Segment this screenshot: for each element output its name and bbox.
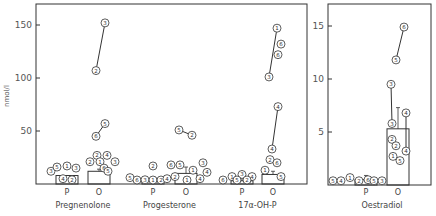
patient-link-line [396, 27, 404, 60]
condition-label: P [240, 188, 245, 197]
y-tick-label: 15 [313, 21, 324, 31]
data-point-label: 1 [98, 159, 102, 165]
data-point-label: 3 [201, 160, 205, 166]
data-point-label: 2 [268, 157, 272, 163]
data-point-label: 2 [173, 174, 177, 180]
data-point-label: 6 [169, 162, 173, 168]
data-point-label: 1 [348, 175, 352, 181]
data-point-label: 3 [240, 171, 244, 177]
y-tick-label: 100 [15, 73, 32, 83]
data-point-label: 1 [391, 153, 395, 159]
data-point-label: 5 [178, 162, 182, 168]
data-point-label: 4 [105, 152, 109, 158]
patient-link-line [272, 107, 278, 149]
data-point-label: 3 [390, 121, 394, 127]
condition-label: O [96, 188, 102, 197]
data-point-label: 4 [404, 110, 408, 116]
data-point-label: 1 [263, 167, 267, 173]
data-point-label: 4 [276, 104, 280, 110]
figure: 50100150PregnenoloneP351342O24213656523P… [0, 0, 436, 216]
data-point-label: 5 [55, 164, 59, 170]
data-point-label: 6 [221, 177, 225, 183]
data-point-label: 1 [275, 25, 279, 31]
data-point-label: 2 [159, 177, 163, 183]
data-point-label: 2 [390, 136, 394, 142]
data-point-label: 4 [404, 148, 408, 154]
group-label: Pregnenolone [56, 201, 111, 210]
group-label: Oestradiol [361, 201, 402, 210]
data-point-label: 2 [394, 143, 398, 149]
data-point-label: 5 [331, 178, 335, 184]
data-point-label: 1 [185, 177, 189, 183]
condition-label: P [65, 188, 70, 197]
data-point-label: 2 [245, 177, 249, 183]
data-point-label: 5 [279, 174, 283, 180]
y-axis-label: nmol/l [3, 85, 11, 107]
data-point-label: 4 [270, 146, 274, 152]
condition-label: O [270, 188, 276, 197]
data-point-label: 3 [49, 168, 53, 174]
data-point-label: 6 [402, 24, 406, 30]
condition-label: P [364, 188, 369, 197]
data-point-label: 3 [113, 159, 117, 165]
group-label: Progesterone [143, 201, 196, 210]
y-tick-label: 150 [15, 20, 32, 30]
plot-frame-right [328, 4, 431, 185]
data-point-label: 3 [143, 177, 147, 183]
condition-label: O [395, 188, 401, 197]
data-point-label: 6 [275, 160, 279, 166]
data-point-label: 3 [267, 74, 271, 80]
data-point-label: 2 [357, 178, 361, 184]
data-point-label: 5 [103, 121, 107, 127]
y-tick-label: 50 [21, 126, 33, 136]
data-point-label: 4 [198, 176, 202, 182]
data-point-label: 5 [128, 175, 132, 181]
data-point-label: 2 [95, 152, 99, 158]
data-point-label: 1 [151, 177, 155, 183]
data-point-label: 5 [372, 178, 376, 184]
data-point-label: 5 [177, 127, 181, 133]
data-point-label: 5 [106, 168, 110, 174]
condition-label: P [151, 188, 156, 197]
data-point-label: 2 [70, 177, 74, 183]
data-point-label: 4 [61, 176, 65, 182]
data-point-label: 3 [389, 81, 393, 87]
data-point-label: 2 [151, 163, 155, 169]
group-label: 17α-OH-P [238, 201, 277, 210]
data-point-label: 4 [165, 176, 169, 182]
data-point-label: 6 [276, 52, 280, 58]
y-tick-label: 10 [313, 74, 325, 84]
patient-link-line [96, 23, 105, 71]
data-point-label: 2 [94, 68, 98, 74]
patient-link-line [391, 84, 392, 123]
data-point-label: 6 [366, 177, 370, 183]
data-point-label: 5 [235, 177, 239, 183]
data-point-label: 1 [65, 163, 69, 169]
data-point-label: 2 [88, 159, 92, 165]
y-tick-label: 5 [318, 127, 324, 137]
data-point-label: 5 [394, 57, 398, 63]
data-point-label: 4 [339, 178, 343, 184]
data-point-label: 6 [94, 133, 98, 139]
data-point-label: 2 [190, 132, 194, 138]
data-point-label: 3 [380, 178, 384, 184]
plot-frame-left [36, 4, 307, 184]
data-point-label: 6 [279, 41, 283, 47]
condition-label: O [183, 188, 189, 197]
data-point-label: 3 [103, 20, 107, 26]
data-point-label: 4 [205, 169, 209, 175]
data-point-label: 5 [398, 158, 402, 164]
data-point-label: 1 [191, 167, 195, 173]
data-point-label: 3 [74, 165, 78, 171]
data-point-label: 6 [135, 177, 139, 183]
